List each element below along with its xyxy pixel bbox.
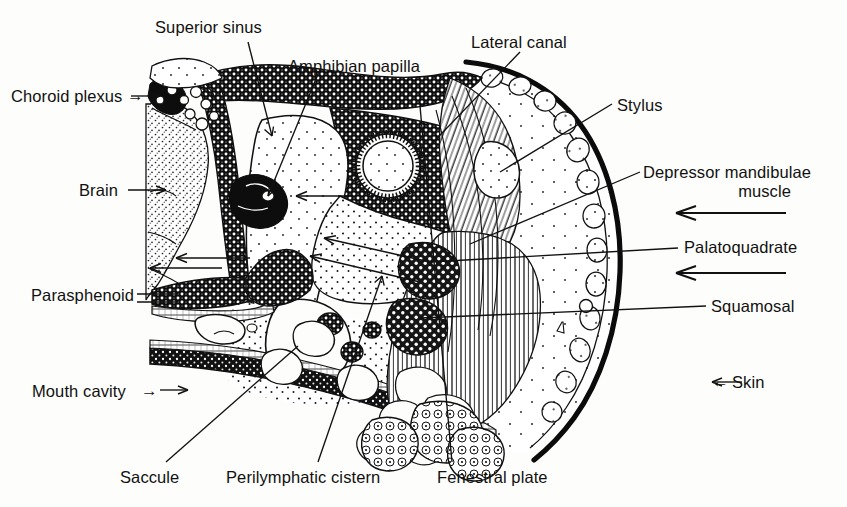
label-parasphenoid: Parasphenoid	[31, 286, 134, 305]
label-palatoquadrate: Palatoquadrate	[684, 238, 797, 257]
label-depressor-mandibulae-muscle-line2: muscle	[643, 182, 791, 201]
label-amphibian-papilla: Amphibian papilla	[288, 57, 420, 76]
label-superior-sinus: Superior sinus	[155, 18, 262, 37]
lateral-canal-ring	[356, 134, 420, 198]
skin-arrow-icon: ←	[712, 372, 729, 391]
label-stylus: Stylus	[617, 96, 663, 115]
anatomical-figure: Superior sinus Amphibian papilla Lateral…	[0, 0, 847, 507]
label-choroid-plexus: Choroid plexus	[11, 87, 122, 106]
label-lateral-canal: Lateral canal	[471, 33, 567, 52]
label-skin: Skin	[732, 373, 765, 392]
label-saccule: Saccule	[120, 468, 179, 487]
label-mouth-cavity: Mouth cavity	[32, 382, 126, 401]
label-perilymphatic-cistern: Perilymphatic cistern	[226, 468, 380, 487]
label-brain: Brain	[79, 181, 118, 200]
label-squamosal: Squamosal	[711, 297, 794, 316]
label-fenestral-plate: Fenestral plate	[437, 468, 548, 487]
choroid-plexus-arrow-icon: →	[127, 86, 144, 105]
mouth-cavity-arrow-icon: →	[141, 381, 158, 400]
label-depressor-mandibulae-muscle-line1: Depressor mandibulae	[643, 163, 811, 182]
